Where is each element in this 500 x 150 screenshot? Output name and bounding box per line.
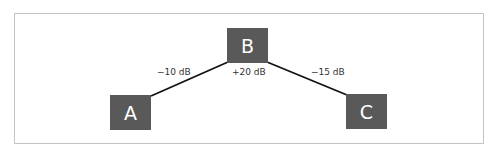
edge-a-b-label: −10 dB xyxy=(157,67,191,77)
node-b-gain-label: +20 dB xyxy=(232,67,266,77)
node-c-label: C xyxy=(360,101,373,123)
node-c: C xyxy=(346,94,387,129)
edge-b-c-label: −15 dB xyxy=(311,67,345,77)
node-a: A xyxy=(110,95,151,130)
node-b-label: B xyxy=(241,35,254,57)
node-b: B xyxy=(227,28,268,63)
node-a-label: A xyxy=(124,102,137,124)
